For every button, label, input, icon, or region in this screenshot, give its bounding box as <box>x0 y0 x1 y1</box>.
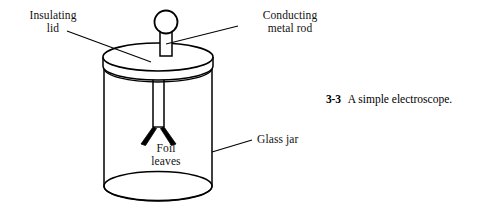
glass-jar <box>104 68 212 201</box>
label-glass-jar: Glass jar <box>257 133 327 146</box>
label-foil-leaves: Foil leaves <box>135 142 197 168</box>
leader-line-glass-jar <box>212 140 252 152</box>
terminal-knob-icon <box>155 11 178 34</box>
figure-page: Insulating lid Conducting metal rod Foil… <box>0 0 490 216</box>
label-insulating-lid: Insulating lid <box>8 9 98 35</box>
glass-jar-body <box>104 68 212 201</box>
figure-caption-text: A simple electroscope. <box>348 93 452 105</box>
figure-caption: 3-3A simple electroscope. <box>326 92 486 106</box>
figure-number: 3-3 <box>326 93 341 105</box>
leader-line-conducting-rod <box>166 26 238 44</box>
label-conducting-metal-rod: Conducting metal rod <box>240 9 340 35</box>
insulating-lid-top <box>103 43 213 71</box>
insulating-lid <box>103 43 213 80</box>
